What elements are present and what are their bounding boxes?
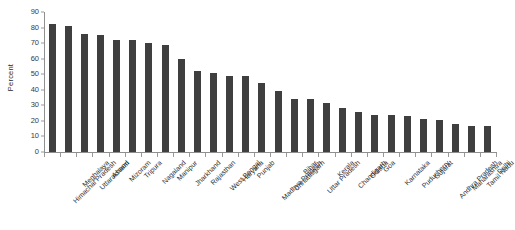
y-tick-label: 30 — [31, 102, 39, 110]
y-tick-label: 90 — [31, 8, 39, 16]
bar[interactable] — [404, 116, 411, 152]
bar[interactable] — [307, 99, 314, 152]
y-axis-title: Percent — [0, 0, 22, 155]
x-tick-mark — [173, 153, 174, 157]
bar[interactable] — [468, 126, 475, 152]
bar[interactable] — [178, 59, 185, 152]
x-tick-mark — [76, 153, 77, 157]
bar[interactable] — [339, 108, 346, 152]
bar[interactable] — [81, 34, 88, 152]
x-tick-mark — [222, 153, 223, 157]
x-tick-mark — [448, 153, 449, 157]
bar[interactable] — [145, 43, 152, 152]
x-tick-mark — [205, 153, 206, 157]
y-tick-label: 70 — [31, 39, 39, 47]
bar[interactable] — [194, 71, 201, 152]
x-tick-mark — [109, 153, 110, 157]
bar[interactable] — [162, 45, 169, 152]
x-tick-mark — [415, 153, 416, 157]
y-axis-title-label: Percent — [7, 64, 16, 91]
x-tick-mark — [464, 153, 465, 157]
x-tick-mark — [302, 153, 303, 157]
y-tick-label: 60 — [31, 55, 39, 63]
x-tick-mark — [335, 153, 336, 157]
x-tick-mark — [431, 153, 432, 157]
bar[interactable] — [49, 24, 56, 152]
y-tick-label: 50 — [31, 70, 39, 78]
x-tick-mark — [254, 153, 255, 157]
bar[interactable] — [436, 120, 443, 152]
bar[interactable] — [258, 83, 265, 152]
bar[interactable] — [484, 126, 491, 152]
x-tick-mark — [351, 153, 352, 157]
x-tick-mark — [383, 153, 384, 157]
bar[interactable] — [65, 26, 72, 152]
bar[interactable] — [323, 103, 330, 152]
bar[interactable] — [242, 76, 249, 152]
bar[interactable] — [371, 115, 378, 152]
x-tick-mark — [125, 153, 126, 157]
bar[interactable] — [452, 124, 459, 152]
x-tick-mark — [238, 153, 239, 157]
bar[interactable] — [210, 73, 217, 152]
x-tick-mark — [399, 153, 400, 157]
x-tick-mark — [157, 153, 158, 157]
bar[interactable] — [226, 76, 233, 152]
x-tick-mark — [480, 153, 481, 157]
y-tick-label: 10 — [31, 133, 39, 141]
x-tick-mark — [367, 153, 368, 157]
bar-series — [44, 12, 496, 152]
x-tick-mark — [44, 153, 45, 157]
bar[interactable] — [129, 40, 136, 152]
bar[interactable] — [275, 91, 282, 152]
y-tick-label: 20 — [31, 117, 39, 125]
bar[interactable] — [291, 99, 298, 152]
bar[interactable] — [113, 40, 120, 152]
x-tick-mark — [286, 153, 287, 157]
x-tick-mark — [189, 153, 190, 157]
y-tick-label: 80 — [31, 24, 39, 32]
bar[interactable] — [420, 119, 427, 152]
y-tick-label: 0 — [35, 148, 39, 156]
x-tick-mark — [92, 153, 93, 157]
x-tick-mark — [496, 153, 497, 157]
x-tick-mark — [60, 153, 61, 157]
y-tick-label: 40 — [31, 86, 39, 94]
bar[interactable] — [355, 112, 362, 152]
x-tick-mark — [270, 153, 271, 157]
x-tick-mark — [141, 153, 142, 157]
x-tick-mark — [318, 153, 319, 157]
bar[interactable] — [388, 115, 395, 152]
plot-area: 0102030405060708090 — [44, 12, 496, 152]
bar[interactable] — [97, 35, 104, 152]
